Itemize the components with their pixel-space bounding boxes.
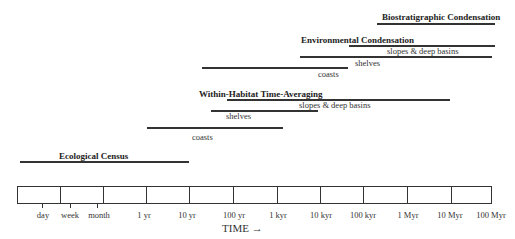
axis-label-1myr: 1 Myr	[397, 210, 418, 220]
axis-divider	[277, 186, 278, 204]
wh-shelves-label: shelves	[226, 111, 251, 121]
env-shelves-label: shelves	[355, 58, 380, 68]
env-coasts-label: coasts	[318, 69, 339, 79]
ecological-census-label: Ecological Census	[59, 151, 128, 161]
axis-divider	[233, 186, 234, 204]
axis-divider	[320, 186, 321, 204]
env-shelves-range-bar	[300, 56, 492, 58]
axis-tick-month	[97, 204, 98, 208]
biostratigraphic-range-bar	[377, 23, 495, 25]
axis-divider	[451, 186, 452, 204]
axis-divider	[189, 186, 190, 204]
axis-label-100kyr: 100 kyr	[350, 210, 376, 220]
axis-label-week: week	[61, 210, 79, 220]
axis-divider	[146, 186, 147, 204]
time-axis-box	[17, 186, 492, 204]
axis-divider	[363, 186, 364, 204]
ecological-census-range-bar	[20, 161, 189, 163]
env-slopes-label: slopes & deep basins	[387, 46, 459, 56]
axis-tick-week	[70, 204, 71, 208]
axis-divider	[60, 186, 61, 204]
within-habitat-label: Within-Habitat Time-Averaging	[199, 89, 323, 99]
wh-coasts-range-bar	[147, 127, 283, 129]
biostratigraphic-condensation-label: Biostratigraphic Condensation	[382, 12, 500, 22]
wh-coasts-label: coasts	[192, 132, 213, 142]
axis-label-1yr: 1 yr	[137, 210, 150, 220]
axis-divider	[103, 186, 104, 204]
axis-label-10yr: 10 yr	[178, 210, 196, 220]
axis-label-100myr: 100 Myr	[476, 210, 506, 220]
axis-divider	[407, 186, 408, 204]
axis-label-100yr: 100 yr	[223, 210, 245, 220]
time-axis-title: TIME →	[222, 222, 263, 234]
wh-slopes-label: slopes & deep basins	[299, 100, 371, 110]
axis-tick-day	[42, 204, 43, 208]
axis-label-10kyr: 10 kyr	[310, 210, 332, 220]
axis-label-10myr: 10 Myr	[437, 210, 462, 220]
environmental-condensation-label: Environmental Condensation	[301, 35, 414, 45]
axis-label-day: day	[37, 210, 49, 220]
axis-label-month: month	[88, 210, 110, 220]
axis-label-1kyr: 1 kyr	[269, 210, 287, 220]
